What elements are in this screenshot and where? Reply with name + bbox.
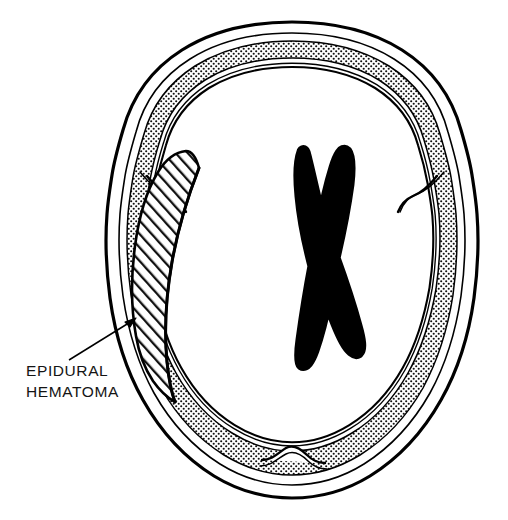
hematoma-label-line-2: HEMATOMA xyxy=(26,383,119,400)
skull-cross-section-illustration: EPIDURAL HEMATOMA xyxy=(0,0,508,520)
epidural-hematoma-figure: EPIDURAL HEMATOMA xyxy=(0,0,508,520)
hematoma-label-line-1: EPIDURAL xyxy=(26,362,108,379)
inner-table-cortex-line xyxy=(151,67,434,442)
